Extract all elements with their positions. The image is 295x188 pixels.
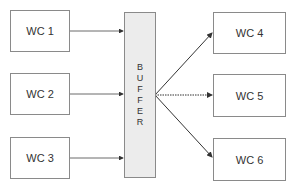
arrow-buffer-to-wc6	[155, 95, 212, 157]
buffer-letter: F	[137, 84, 143, 95]
buffer-box: B U F F E R	[124, 12, 156, 178]
wc6-label: WC 6	[236, 154, 264, 166]
wc1-label: WC 1	[26, 25, 54, 37]
buffer-letter: F	[137, 95, 143, 106]
wc2-label: WC 2	[26, 88, 54, 100]
workcenter-wc1: WC 1	[10, 10, 70, 52]
workcenter-wc6: WC 6	[213, 138, 286, 181]
buffer-letter: E	[137, 106, 143, 117]
buffer-letter: R	[137, 117, 144, 128]
wc4-label: WC 4	[236, 27, 264, 39]
wc3-label: WC 3	[26, 152, 54, 164]
workcenter-wc4: WC 4	[213, 12, 286, 54]
arrow-buffer-to-wc4	[155, 33, 212, 95]
buffer-letter: U	[137, 73, 144, 84]
wc5-label: WC 5	[236, 90, 264, 102]
workcenter-wc2: WC 2	[10, 73, 70, 115]
workcenter-wc5: WC 5	[213, 74, 286, 117]
buffer-letter: B	[137, 62, 143, 73]
workcenter-wc3: WC 3	[10, 137, 70, 179]
